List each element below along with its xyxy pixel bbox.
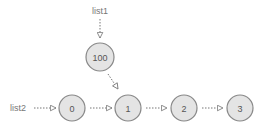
node-2: 2	[171, 95, 197, 121]
node-100: 100	[86, 43, 114, 71]
node-0: 0	[59, 95, 85, 121]
node-3: 3	[227, 95, 253, 121]
node-value: 1	[125, 104, 130, 114]
node-value: 100	[92, 53, 107, 63]
node-value: 3	[237, 104, 242, 114]
node-100-next-arrow	[108, 74, 118, 89]
linked-list-diagram: list1 100 list2 0 1 2 3	[0, 0, 268, 128]
list1-label: list1	[92, 6, 108, 16]
node-1: 1	[115, 95, 141, 121]
list2-label: list2	[10, 103, 26, 113]
node-value: 0	[69, 104, 74, 114]
node-value: 2	[181, 104, 186, 114]
